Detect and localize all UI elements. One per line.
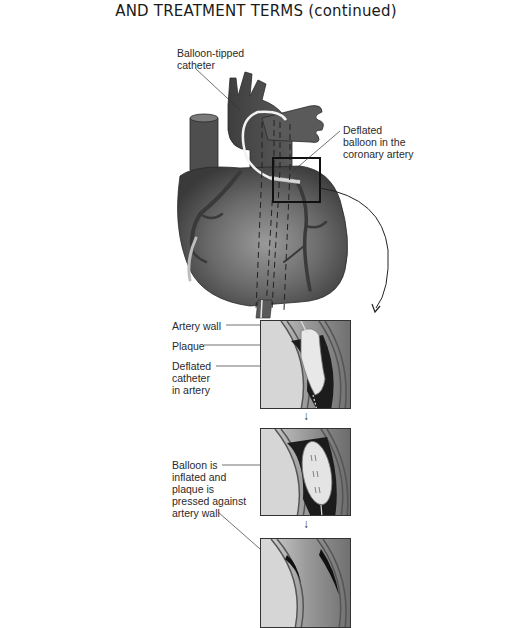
artery-cross-section-2 (261, 429, 351, 516)
vena-cava (190, 114, 218, 174)
label-deflated-catheter: Deflated catheter in artery (172, 360, 211, 396)
label-artery-wall: Artery wall (172, 320, 221, 332)
panel-deflated-catheter (260, 320, 351, 409)
artery-cross-section-3 (261, 539, 351, 628)
aortic-arch (228, 72, 323, 170)
label-balloon-tipped-catheter: Balloon-tipped catheter (177, 47, 244, 71)
down-arrow-1: ↓ (300, 410, 312, 422)
artery-cross-section-1 (261, 321, 351, 409)
label-plaque: Plaque (172, 340, 205, 352)
panel-artery-opened (260, 538, 351, 628)
label-balloon-inflated: Balloon is inflated and plaque is presse… (172, 459, 246, 519)
panel-balloon-inflated (260, 428, 351, 516)
heart-body (178, 166, 348, 306)
label-deflated-balloon: Deflated balloon in the coronary artery (343, 124, 414, 160)
down-arrow-2: ↓ (300, 518, 312, 530)
